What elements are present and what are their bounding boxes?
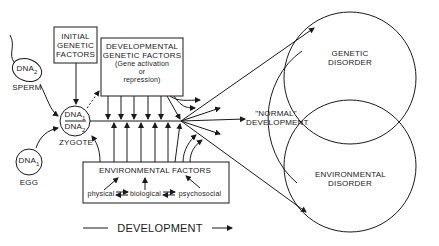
environmental-disorder-label: ENVIRONMENTAL DISORDER xyxy=(315,170,385,188)
normal-development-label: "NORMAL" DEVELOPMENT xyxy=(246,109,306,127)
sperm-tail xyxy=(10,35,14,62)
initial-genetic-text: INITIAL GENETIC FACTORS xyxy=(54,32,97,59)
genetic-disorder-label: GENETIC DISORDER xyxy=(320,49,380,67)
psychosocial-label: psychosocial xyxy=(176,190,224,198)
developmental-genetic-text: DEVELOPMENTAL GENETIC FACTORS (Gene acti… xyxy=(101,42,183,84)
sperm-dna-label: DNA2 xyxy=(15,64,39,77)
biological-label: biological xyxy=(128,190,163,198)
egg-dna-label: DNA1 xyxy=(17,156,41,169)
zygote-bottom-label: DNA2 xyxy=(63,122,87,135)
sperm-label: SPERM xyxy=(12,83,42,92)
zygote-label: ZYGOTE xyxy=(58,138,94,147)
zygote-top-label: DNA1 xyxy=(63,110,87,123)
egg-label: EGG xyxy=(17,178,41,187)
environmental-factors-title: ENVIRONMENTAL FACTORS xyxy=(90,166,220,175)
physical-label: physical xyxy=(86,190,116,198)
development-axis-label: DEVELOPMENT xyxy=(110,222,210,234)
